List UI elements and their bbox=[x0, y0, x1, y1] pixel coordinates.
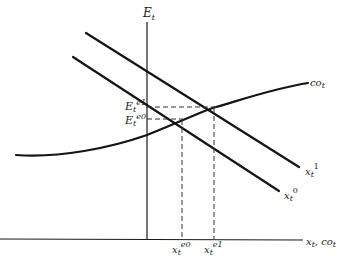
co-curve-label: cot bbox=[310, 77, 326, 90]
x-axis-label: xt, cot bbox=[306, 236, 337, 249]
y-axis-label: Et bbox=[142, 6, 156, 22]
x0-line-label: xt0 bbox=[284, 186, 298, 203]
x1-line bbox=[86, 33, 299, 167]
e1-x-label: xte1 bbox=[204, 240, 223, 257]
e0-y-label: Ete0 bbox=[124, 112, 146, 128]
e0-x-label: xte0 bbox=[172, 240, 191, 257]
x1-line-label: xt1 bbox=[305, 162, 319, 179]
horizontal-axis bbox=[0, 239, 303, 240]
economic-diagram: Et xt, cot xt1 xt0 cot Ete1 Ete0 xte0 xt… bbox=[0, 0, 339, 263]
